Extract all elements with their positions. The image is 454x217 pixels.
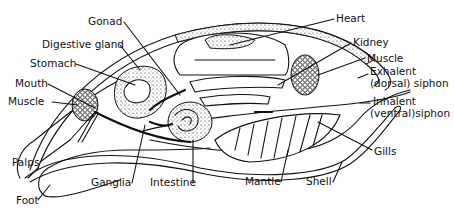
label-muscle-posterior: Muscle: [367, 52, 403, 64]
label-palps: Palps: [12, 156, 39, 168]
label-muscle-anterior: Muscle: [8, 95, 44, 107]
label-ganglia: Ganglia: [91, 176, 131, 188]
label-inhalent-2: (ventral)siphon: [370, 107, 450, 119]
intestine-coil: [168, 102, 212, 142]
internal-organs: [70, 33, 340, 162]
label-kidney: Kidney: [353, 36, 389, 48]
label-exhalent-1: Exhalent: [370, 65, 416, 77]
label-foot: Foot: [16, 194, 39, 206]
label-inhalent-1: Inhalent: [373, 95, 416, 107]
label-mouth: Mouth: [15, 77, 48, 89]
label-digestive-gland: Digestive gland: [42, 38, 124, 50]
label-gills: Gills: [374, 145, 396, 157]
label-stomach: Stomach: [30, 57, 76, 69]
label-intestine: Intestine: [150, 176, 196, 188]
label-shell: Shell: [306, 175, 332, 187]
label-exhalent-2: (dorsal) siphon: [370, 77, 449, 89]
label-gonad: Gonad: [88, 15, 122, 27]
foot: [39, 148, 210, 196]
bivalve-anatomy-diagram: Gonad Digestive gland Stomach Mouth Musc…: [0, 0, 454, 217]
label-mantle: Mantle: [245, 175, 281, 187]
label-heart: Heart: [336, 12, 365, 24]
